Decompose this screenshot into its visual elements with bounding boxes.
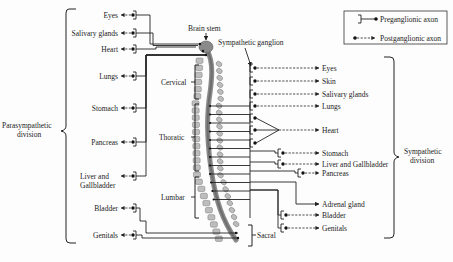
- preganglionic-axon-adrenal: [250, 182, 319, 204]
- heart-fiber: [256, 130, 279, 143]
- sympathetic-target-row: Adrenal gland: [250, 182, 365, 209]
- parasympathetic-target-label: Eyes: [103, 11, 118, 20]
- spinous-process: [215, 109, 223, 116]
- region-label-cervical: Cervical: [161, 78, 186, 87]
- region-lumbar: Lumbar: [161, 177, 199, 218]
- spinous-process: [228, 206, 236, 213]
- ganglion-cell: [131, 206, 134, 209]
- spinal-nucleus: [209, 156, 211, 158]
- spinal-nucleus: [209, 105, 211, 107]
- vertebra: [193, 143, 200, 148]
- chain-ganglion: [250, 139, 253, 147]
- spinous-process: [222, 186, 230, 193]
- vertebra: [205, 208, 212, 213]
- spinal-nucleus: [209, 173, 211, 175]
- collateral-ganglion-bracket: [281, 211, 284, 219]
- vertebra: [193, 151, 200, 156]
- sympathetic-ganglion-label: Sympathetic ganglion: [218, 38, 284, 47]
- vertebra: [210, 222, 217, 227]
- spinous-process: [215, 60, 223, 67]
- preganglionic-axon: [250, 190, 281, 228]
- legend-postganglionic-label: Postganglionic axon: [380, 34, 441, 43]
- ganglion-cell: [131, 13, 134, 16]
- parasympathetic-target-row: Eyes: [103, 11, 200, 44]
- region-label-lumbar: Lumbar: [161, 193, 185, 202]
- spinous-process: [217, 88, 225, 95]
- collateral-ganglion-bracket: [278, 149, 281, 157]
- parasympathetic-target-label: Lungs: [99, 72, 118, 81]
- parasympathetic-target-row: Heart: [101, 45, 196, 54]
- vertebra: [195, 72, 202, 77]
- sympathetic-target-label: Bladder: [322, 211, 346, 220]
- brain-stem-shape: [199, 41, 213, 53]
- sacral-nucleus: [237, 237, 239, 239]
- preganglionic-axon: [250, 190, 281, 215]
- sympathetic-target-label: Eyes: [322, 64, 337, 73]
- ganglion-cell: [131, 140, 134, 143]
- legend-preganglionic-symbol: [358, 15, 378, 23]
- collateral-ganglion-bracket: [298, 169, 301, 177]
- vertebra: [195, 79, 202, 84]
- parasympathetic-target-label: Bladder: [94, 204, 118, 213]
- spinous-process: [217, 172, 225, 179]
- heart-fiber: [256, 118, 279, 130]
- spinous-process: [216, 67, 224, 74]
- sympathetic-title-line2: division: [410, 156, 434, 165]
- sympathetic-division-bracket: [384, 57, 399, 238]
- ganglion-cell: [131, 31, 134, 34]
- preganglionic-axon: [250, 171, 298, 173]
- vertebra: [192, 115, 199, 120]
- parasympathetic-target-label: Stomach: [92, 104, 118, 113]
- sympathetic-target-label: Lungs: [322, 102, 341, 111]
- legend: Preganglionic axon Postganglionic axon: [344, 11, 447, 44]
- parasympathetic-title-line2: division: [17, 130, 41, 139]
- ganglion-cell: [253, 66, 256, 69]
- spinal-nucleus: [213, 198, 215, 200]
- parasympathetic-target-row: Lungs: [99, 55, 205, 81]
- preganglionic-axon: [250, 162, 278, 164]
- vertebra: [215, 236, 222, 241]
- sacral-nucleus: [235, 232, 237, 234]
- region-label-sacral: Sacral: [257, 231, 276, 240]
- sympathetic-target-row: Salivary glands: [257, 90, 369, 99]
- parasympathetic-target-row: Stomach: [92, 55, 205, 113]
- spinous-process: [216, 74, 224, 81]
- ganglion-cell: [131, 47, 134, 50]
- parasympathetic-target-label: Pancreas: [91, 138, 118, 147]
- parasympathetic-target-label: Gallbladder: [80, 181, 116, 190]
- spinous-process: [224, 192, 232, 199]
- ganglion-cell: [284, 213, 287, 216]
- sympathetic-target-row: Heart: [256, 118, 340, 143]
- vertebra: [203, 200, 210, 205]
- parasympathetic-target-label: Genitals: [93, 231, 118, 240]
- spinal-nucleus: [209, 122, 211, 124]
- vertebra: [200, 193, 207, 198]
- collateral-ganglion-bracket: [278, 160, 281, 168]
- vertebra: [208, 215, 215, 220]
- sympathetic-target-label: Adrenal gland: [322, 200, 365, 209]
- vertebra: [196, 65, 203, 70]
- parasympathetic-division-bracket: [61, 9, 76, 243]
- vertebra: [192, 122, 199, 127]
- spinal-nucleus: [209, 113, 211, 115]
- spinous-process: [230, 213, 238, 220]
- spinous-process: [232, 220, 240, 227]
- parasympathetic-target-label: Salivary glands: [72, 29, 119, 38]
- parasympathetic-target-row: Pancreas: [91, 55, 205, 147]
- chain-ganglion: [250, 64, 253, 72]
- spinal-column: [192, 50, 240, 241]
- vertebra: [192, 108, 199, 113]
- sympathetic-target-label: Salivary glands: [322, 90, 369, 99]
- sympathetic-target-label: Stomach: [322, 149, 348, 158]
- spinal-nucleus: [209, 147, 211, 149]
- parasympathetic-target-label: Liver and: [80, 172, 109, 181]
- vertebra: [195, 179, 202, 184]
- ganglion-cell: [131, 106, 134, 109]
- sympathetic-title-line1: Sympathetic: [404, 147, 442, 156]
- spinous-process: [216, 158, 224, 165]
- ganglion-cell: [281, 151, 284, 154]
- sympathetic-target-label: Genitals: [322, 224, 347, 233]
- region-cervical: Cervical: [161, 65, 199, 99]
- ganglion-cell: [131, 74, 134, 77]
- brain-stem-label: Brain stem: [188, 24, 221, 33]
